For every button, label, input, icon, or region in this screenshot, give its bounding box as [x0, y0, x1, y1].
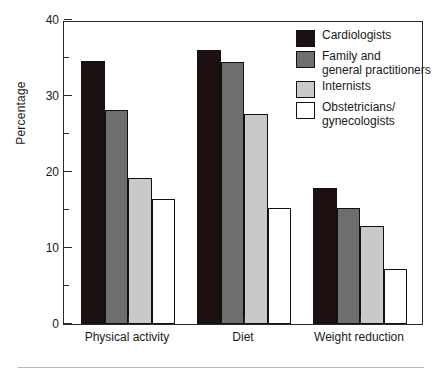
y-axis-tick-minor	[64, 285, 69, 286]
x-axis-tick	[128, 317, 129, 324]
bar-chart-figure: Percentage 010203040 Physical activityDi…	[0, 0, 442, 374]
legend-swatch	[296, 81, 315, 98]
bar	[337, 208, 361, 324]
y-axis-tick-minor	[64, 133, 69, 134]
y-axis-tick-label: 10	[46, 241, 59, 255]
y-axis-tick-label: 20	[46, 165, 59, 179]
bar	[244, 114, 268, 324]
legend-item: Family and general practitioners	[296, 50, 431, 77]
bar	[81, 61, 105, 324]
y-axis-tick-label: 30	[46, 89, 59, 103]
y-axis-title: Percentage	[14, 58, 28, 168]
legend-label: Obstetricians/ gynecologists	[322, 101, 395, 128]
legend-label: Family and general practitioners	[322, 50, 431, 77]
legend-item: Obstetricians/ gynecologists	[296, 101, 431, 128]
bar	[384, 269, 408, 324]
y-axis-tick-minor	[64, 209, 69, 210]
x-axis-tick-label: Physical activity	[85, 330, 170, 344]
legend-swatch	[296, 51, 315, 68]
x-axis-tick-label: Diet	[232, 330, 253, 344]
legend-item: Cardiologists	[296, 29, 431, 47]
y-axis-tick-label: 40	[46, 13, 59, 27]
legend-swatch	[296, 102, 315, 119]
bottom-divider	[18, 367, 424, 368]
bar	[128, 178, 152, 324]
y-axis-tick-major: 10	[64, 247, 72, 248]
chart-legend: CardiologistsFamily and general practiti…	[296, 29, 431, 131]
y-axis-tick-major: 40	[64, 19, 72, 20]
y-axis-tick-major: 20	[64, 171, 72, 172]
legend-swatch	[296, 30, 315, 47]
bar	[221, 62, 245, 324]
bar	[268, 208, 292, 324]
bar	[360, 226, 384, 324]
legend-label: Cardiologists	[322, 29, 391, 43]
x-axis-tick	[244, 317, 245, 324]
bar	[105, 110, 129, 324]
x-axis-tick	[360, 317, 361, 324]
y-axis-tick-minor	[64, 57, 69, 58]
legend-label: Internists	[322, 80, 371, 94]
y-axis-tick-major: 30	[64, 95, 72, 96]
x-axis-tick-label: Weight reduction	[314, 330, 404, 344]
bar	[197, 50, 221, 324]
y-axis-tick-label: 0	[52, 317, 59, 331]
bar	[152, 199, 176, 324]
y-axis-tick-major: 0	[64, 323, 72, 324]
legend-item: Internists	[296, 80, 431, 98]
bar	[313, 188, 337, 324]
